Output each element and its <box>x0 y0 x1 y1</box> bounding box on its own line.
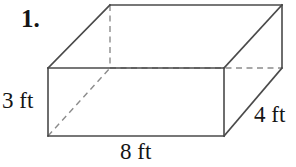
prism-front-face <box>48 68 224 136</box>
dimension-label-width: 8 ft <box>120 140 151 163</box>
dimension-label-depth: 4 ft <box>254 103 285 126</box>
dimension-label-height: 3 ft <box>2 89 33 112</box>
geometry-problem-figure: 1. 3 ft 8 ft 4 ft <box>0 0 296 167</box>
problem-number: 1. <box>21 6 40 31</box>
